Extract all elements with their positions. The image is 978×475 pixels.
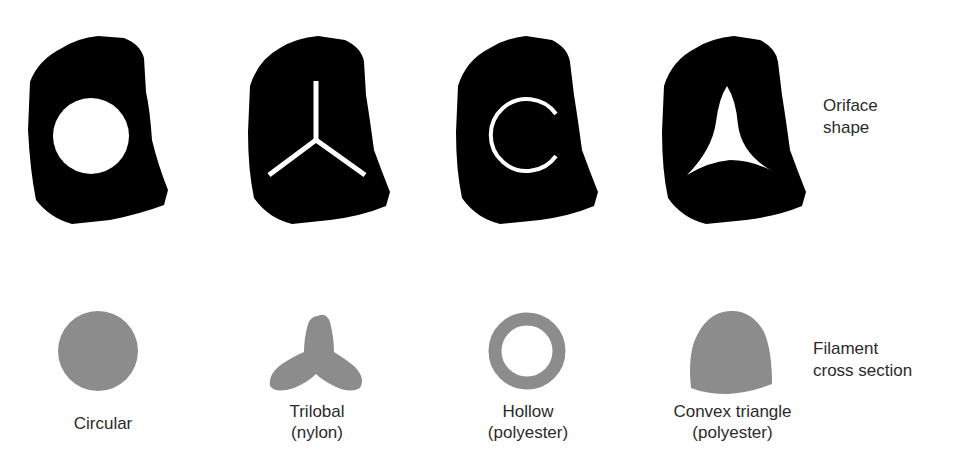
die-plate-hollow <box>456 36 598 224</box>
filament-hollow <box>495 319 559 383</box>
row-label-line: shape <box>823 117 878 139</box>
row-label-line: Oriface <box>823 95 878 117</box>
die-plate-trilobal <box>248 36 390 224</box>
item-label-hollow: Hollow (polyester) <box>468 401 588 443</box>
item-label-line: Trilobal <box>262 401 372 422</box>
filament-circular <box>58 311 138 391</box>
item-label-trilobal: Trilobal (nylon) <box>262 401 372 443</box>
die-plate-circular <box>28 36 168 224</box>
item-label-circular: Circular <box>48 413 158 434</box>
item-label-line: Hollow <box>468 401 588 422</box>
item-label-line: Convex triangle <box>655 401 810 422</box>
item-label-line: (polyester) <box>468 422 588 443</box>
filament-convex-triangle <box>690 311 772 394</box>
row-label-line: cross section <box>813 360 912 382</box>
item-label-line: (nylon) <box>262 422 372 443</box>
item-label-line: (polyester) <box>655 422 810 443</box>
filament-trilobal <box>270 315 362 391</box>
row-label-filament-cross-section: Filament cross section <box>813 338 912 382</box>
orifice-circle-hole <box>53 98 129 174</box>
item-label-convex-triangle: Convex triangle (polyester) <box>655 401 810 443</box>
item-label-line: Circular <box>48 413 158 434</box>
row-label-line: Filament <box>813 338 912 360</box>
row-label-orifice-shape: Oriface shape <box>823 95 878 139</box>
die-plate-convex-triangle <box>662 36 806 224</box>
